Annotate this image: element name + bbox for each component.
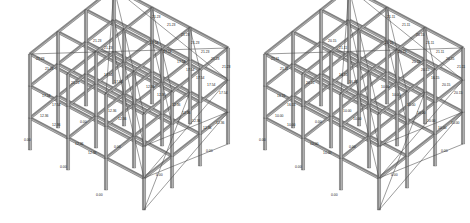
node-elevation-label: 12.36 (146, 85, 155, 89)
right-structural-frame: 21.1121.1120.1521.1121.1120.1521.1120.15… (235, 0, 470, 223)
node-elevation-label: 10.00 (343, 109, 352, 113)
node-elevation-label: 12.36 (172, 103, 181, 107)
node-elevation-label: 21.23 (201, 50, 210, 54)
beam-member-y (161, 27, 191, 51)
node-elevation-label: 12.36 (75, 142, 84, 146)
node-elevation-label: 21.11 (457, 65, 465, 69)
member-highlight (303, 84, 331, 106)
node-elevation-label: 12.36 (118, 117, 127, 121)
right-structural-frame-svg: 21.1121.1120.1521.1121.1120.1521.1120.15… (235, 0, 470, 223)
node-elevation-label: 0.00 (259, 138, 266, 142)
node-elevation-label: 10.00 (287, 123, 296, 127)
node-elevation-label: 12.36 (216, 121, 225, 125)
node-elevation-label: 10.00 (275, 114, 284, 118)
beam-member-y (29, 63, 59, 87)
node-elevation-label: 20.15 (454, 91, 463, 95)
node-elevation-label: 20.15 (416, 33, 425, 37)
beam-member-y (57, 9, 87, 33)
member-highlight (106, 104, 134, 126)
node-elevation-label: 21.11 (436, 50, 444, 54)
member-highlight (265, 119, 303, 139)
node-elevation-label: 10.00 (310, 142, 319, 146)
beam-member-y (171, 133, 201, 157)
beam-member-y (358, 7, 388, 31)
node-elevation-label: 17.54 (196, 76, 205, 80)
node-elevation-label: 20.15 (328, 39, 337, 43)
beam-member-y (67, 115, 97, 139)
column-member (198, 70, 201, 102)
member-highlight (162, 28, 190, 50)
beam-member-y (406, 133, 436, 157)
member-highlight (293, 10, 321, 32)
member-highlight (106, 159, 144, 179)
node-elevation-label: 12.36 (203, 126, 212, 130)
node-elevation-label: 20.15 (385, 41, 394, 45)
node-elevation-label: 0.00 (295, 165, 302, 169)
node-elevation-label: 21.11 (280, 67, 288, 71)
column-member (160, 114, 163, 146)
beam-member-y (320, 0, 350, 11)
node-elevation-label: 0.00 (315, 120, 322, 124)
node-elevation-label: 21.23 (191, 41, 200, 45)
member-highlight (58, 10, 86, 32)
column-member (170, 124, 173, 156)
member-highlight (303, 139, 341, 159)
beam-member-y (292, 9, 322, 33)
column-member (188, 60, 191, 92)
column-member (226, 48, 229, 80)
member-highlight (359, 8, 387, 30)
frame-diagram-canvas: 21.2321.2321.2321.2321.2321.2321.2321.23… (0, 0, 470, 223)
node-elevation-label: 21.23 (222, 65, 231, 69)
node-elevation-label: 16.15 (349, 80, 358, 84)
left-structural-frame-svg: 21.2321.2321.2321.2321.2321.2321.2321.23… (0, 0, 235, 223)
node-elevation-label: 0.00 (80, 120, 87, 124)
node-elevation-label: 21.23 (93, 39, 102, 43)
member-highlight (190, 29, 228, 49)
node-elevation-label: 10.00 (381, 85, 390, 89)
node-elevation-label: 17.54 (52, 103, 61, 107)
node-elevation-label: 0.00 (331, 193, 338, 197)
node-elevation-label: 20.15 (412, 60, 421, 64)
node-elevation-label: 10.00 (451, 121, 460, 125)
node-elevation-label: 20.15 (306, 81, 315, 85)
node-elevation-label: 21.23 (71, 81, 80, 85)
node-elevation-label: 0.00 (156, 173, 163, 177)
node-elevation-label: 16.15 (339, 73, 348, 77)
beam-member-x (113, 0, 152, 9)
beam-member-y (123, 7, 153, 31)
node-elevation-label: 12.36 (182, 111, 191, 115)
node-elevation-label: 17.54 (42, 94, 51, 98)
node-elevation-label: 0.00 (114, 145, 121, 149)
beam-member-y (264, 63, 294, 87)
member-highlight (303, 52, 331, 74)
node-elevation-label: 12.36 (192, 119, 201, 123)
node-elevation-label: 17.54 (114, 80, 123, 84)
node-elevation-label: 12.36 (88, 151, 97, 155)
node-elevation-label: 0.00 (96, 193, 103, 197)
column-member (226, 80, 229, 112)
column-member (170, 156, 173, 188)
node-elevation-label: 21.11 (426, 41, 434, 45)
beam-member-x (348, 0, 387, 9)
node-elevation-label: 17.54 (104, 73, 113, 77)
beam-member-y (396, 27, 426, 51)
node-elevation-label: 10.00 (407, 103, 416, 107)
node-elevation-label: 17.54 (163, 50, 172, 54)
node-elevation-label: 20.15 (446, 57, 455, 61)
node-elevation-label: 17.54 (150, 41, 159, 45)
node-elevation-label: 12.36 (157, 93, 166, 97)
node-elevation-label: 21.23 (181, 33, 190, 37)
node-elevation-label: 10.00 (353, 117, 362, 121)
beam-member-y (29, 31, 59, 55)
node-elevation-label: 17.54 (219, 91, 228, 95)
node-elevation-label: 16.15 (431, 76, 440, 80)
member-highlight (341, 104, 369, 126)
column-member (198, 134, 201, 166)
node-elevation-label: 21.23 (211, 57, 220, 61)
column-member (226, 112, 229, 144)
member-highlight (341, 159, 379, 179)
member-highlight (172, 134, 200, 156)
member-highlight (144, 124, 172, 146)
node-elevation-label: 21.23 (104, 46, 113, 50)
member-highlight (124, 8, 152, 30)
